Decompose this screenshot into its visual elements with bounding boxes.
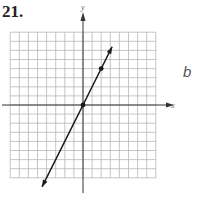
coordinate-plane: x y — [0, 0, 198, 200]
y-axis-label: y — [80, 3, 85, 12]
axes — [2, 12, 174, 193]
x-axis-label: x — [170, 101, 175, 110]
